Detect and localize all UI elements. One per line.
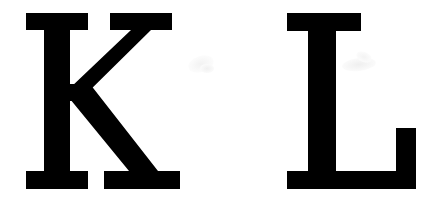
- letters-artwork: [0, 0, 442, 214]
- image-canvas: K L: [0, 0, 442, 214]
